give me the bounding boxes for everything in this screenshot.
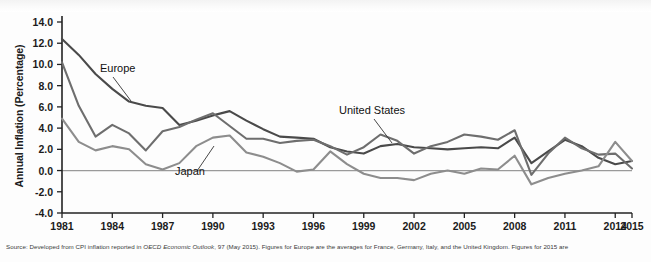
y-tick-label: 10.0 bbox=[33, 58, 54, 70]
x-tick-label: 1987 bbox=[151, 220, 175, 232]
y-tick-label: 6.0 bbox=[38, 101, 53, 113]
x-tick-label: 1984 bbox=[101, 220, 125, 232]
y-tick-label: 8.0 bbox=[38, 80, 53, 92]
x-tick-label: 1999 bbox=[352, 220, 376, 232]
y-tick-label: 14.0 bbox=[33, 16, 54, 28]
y-tick-label: 4.0 bbox=[38, 122, 53, 134]
y-axis-ticks-group: 14.012.010.08.06.04.02.00.0-2.0-4.0 bbox=[33, 16, 62, 219]
series-line-europe bbox=[62, 39, 632, 164]
annotation-leader-line bbox=[374, 119, 392, 143]
x-tick-label: 1993 bbox=[251, 220, 275, 232]
source-publication-title: OECD Economic Outlook bbox=[143, 243, 214, 250]
x-tick-label: 1981 bbox=[50, 220, 74, 232]
source-note: Source: Developed from CPI inflation rep… bbox=[6, 243, 646, 251]
figure-container: Annual Inflation (Percentage) 14.012.010… bbox=[0, 0, 651, 262]
series-annotations-group: EuropeJapanUnited States bbox=[100, 62, 406, 177]
x-tick-label: 1996 bbox=[302, 220, 326, 232]
x-tick-label: 2008 bbox=[503, 220, 527, 232]
y-tick-label: 0.0 bbox=[38, 165, 53, 177]
x-tick-label: 2005 bbox=[453, 220, 477, 232]
inflation-line-chart: 14.012.010.08.06.04.02.00.0-2.0-4.0 1981… bbox=[0, 0, 651, 235]
y-tick-label: 12.0 bbox=[33, 37, 54, 49]
source-text-suffix: , 97 (May 2015). Figures for Europe are … bbox=[214, 243, 568, 250]
series-label-europe: Europe bbox=[100, 62, 135, 74]
plot-area: 14.012.010.08.06.04.02.00.0-2.0-4.0 1981… bbox=[0, 0, 651, 235]
series-label-japan: Japan bbox=[175, 165, 205, 177]
x-tick-label: 2002 bbox=[402, 220, 426, 232]
x-tick-label: 2015 bbox=[620, 220, 644, 232]
y-tick-label: -2.0 bbox=[35, 186, 53, 198]
y-tick-label: 2.0 bbox=[38, 143, 53, 155]
source-text-prefix: Source: Developed from CPI inflation rep… bbox=[6, 243, 143, 250]
x-axis-ticks-group: 1981198419871990199319961999200220052008… bbox=[50, 213, 644, 232]
y-tick-label: -4.0 bbox=[35, 207, 53, 219]
x-tick-label: 1990 bbox=[201, 220, 225, 232]
x-tick-label: 2011 bbox=[554, 220, 577, 232]
series-line-united-states bbox=[62, 62, 632, 174]
series-label-united-states: United States bbox=[339, 104, 406, 116]
